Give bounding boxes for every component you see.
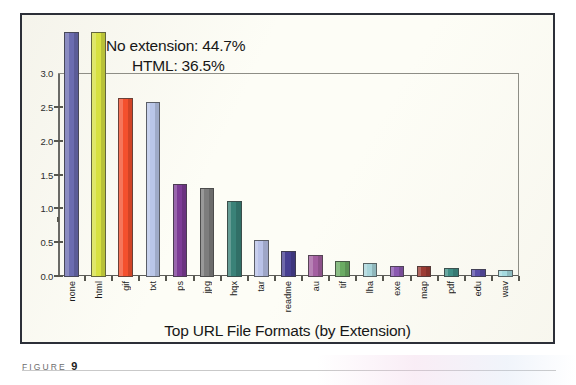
bar-lha bbox=[363, 263, 378, 277]
caption-divider bbox=[22, 370, 556, 371]
y-axis-tick-label: 2.0 bbox=[40, 135, 53, 146]
bar-highlight bbox=[174, 185, 177, 276]
bar-slot: wav bbox=[492, 15, 519, 277]
bar-highlight bbox=[336, 262, 339, 276]
x-axis-label-tar: tar bbox=[256, 281, 266, 292]
bar-highlight bbox=[92, 33, 95, 276]
bar-slot: edu bbox=[465, 15, 492, 277]
y-axis-tick-label: 2.5 bbox=[40, 101, 53, 112]
bar-shade bbox=[182, 185, 186, 276]
bar-ps bbox=[173, 184, 188, 277]
x-axis-label-ps: ps bbox=[175, 281, 185, 291]
x-axis-label-readme: readme bbox=[283, 281, 293, 312]
bar-map bbox=[417, 266, 432, 277]
x-axis-label-tif: tif bbox=[338, 281, 348, 288]
bar-shade bbox=[128, 99, 132, 276]
x-axis-label-lha: lha bbox=[365, 281, 375, 293]
bar-slot: pdf bbox=[438, 15, 465, 277]
y-axis-tick-label: 0.5 bbox=[40, 237, 53, 248]
bar-highlight bbox=[282, 252, 285, 276]
bar-tar bbox=[254, 240, 269, 277]
bar-slot: tar bbox=[248, 15, 275, 277]
bar-shade bbox=[507, 271, 511, 276]
x-axis-label-none: none bbox=[67, 281, 77, 301]
bar-highlight bbox=[472, 270, 475, 276]
bar-slot: tif bbox=[329, 15, 356, 277]
bar-highlight bbox=[499, 271, 502, 276]
bar-highlight bbox=[445, 269, 448, 276]
bar-slot: au bbox=[302, 15, 329, 277]
y-axis-tick-label: 1.5 bbox=[40, 169, 53, 180]
bar-highlight bbox=[309, 256, 312, 276]
bar-shade bbox=[263, 241, 267, 276]
bar-edu bbox=[471, 269, 486, 277]
y-axis-tick-label: 1.0 bbox=[40, 203, 53, 214]
bar-highlight bbox=[147, 103, 150, 276]
bar-exe bbox=[390, 266, 405, 278]
x-axis-label-map: map bbox=[419, 281, 429, 299]
bar-shade bbox=[426, 267, 430, 276]
bar-slot: none bbox=[58, 15, 85, 277]
bar-wav bbox=[498, 270, 513, 277]
x-axis-label-html: html bbox=[94, 281, 104, 298]
bar-au bbox=[308, 255, 323, 277]
bar-highlight bbox=[119, 99, 122, 276]
x-axis-origin-tick bbox=[57, 217, 59, 222]
x-axis-label-gif: gif bbox=[121, 281, 131, 291]
bar-slot: exe bbox=[383, 15, 410, 277]
bar-highlight bbox=[391, 267, 394, 277]
x-axis-label-jpg: jpg bbox=[202, 281, 212, 293]
bar-shade bbox=[372, 264, 376, 276]
x-axis-label-au: au bbox=[311, 281, 321, 291]
chart-title: Top URL File Formats (by Extension) bbox=[22, 322, 553, 340]
bar-shade bbox=[345, 262, 349, 276]
x-axis-label-edu: edu bbox=[473, 281, 483, 296]
bar-shade bbox=[318, 256, 322, 276]
bar-highlight bbox=[228, 202, 231, 276]
bar-highlight bbox=[255, 241, 258, 276]
bar-html bbox=[91, 32, 106, 277]
bar-none bbox=[64, 32, 79, 277]
bar-shade bbox=[236, 202, 240, 276]
x-axis-tick-mark bbox=[518, 276, 520, 281]
x-axis-label-exe: exe bbox=[392, 281, 402, 296]
x-axis-label-wav: wav bbox=[500, 281, 510, 297]
bar-slot: map bbox=[411, 15, 438, 277]
x-axis-label-txt: txt bbox=[148, 281, 158, 291]
annotation-no-extension: No extension: 44.7% bbox=[106, 37, 245, 55]
bar-shade bbox=[480, 270, 484, 276]
bar-highlight bbox=[364, 264, 367, 276]
bar-shade bbox=[209, 189, 213, 276]
bar-readme bbox=[281, 251, 296, 277]
bar-txt bbox=[146, 102, 161, 277]
figure-frame: 0.00.51.01.52.02.53.0 nonehtmlgiftxtpsjp… bbox=[20, 13, 555, 344]
x-axis-label-pdf: pdf bbox=[446, 281, 456, 294]
bar-highlight bbox=[201, 189, 204, 276]
bar-shade bbox=[74, 33, 78, 276]
bar-shade bbox=[155, 103, 159, 276]
annotation-html: HTML: 36.5% bbox=[132, 57, 225, 75]
bar-jpg bbox=[200, 188, 215, 277]
y-axis-tick-label: 3.0 bbox=[40, 68, 53, 79]
bar-hqx bbox=[227, 201, 242, 277]
bar-highlight bbox=[418, 267, 421, 276]
bar-pdf bbox=[444, 268, 459, 277]
bar-shade bbox=[453, 269, 457, 276]
figure-caption: FIGURE 9 bbox=[22, 356, 556, 374]
bar-highlight bbox=[65, 33, 68, 276]
bar-shade bbox=[291, 252, 295, 276]
bar-shade bbox=[399, 267, 403, 277]
bar-slot: readme bbox=[275, 15, 302, 277]
y-axis-tick-label: 0.0 bbox=[40, 271, 53, 282]
bar-gif bbox=[118, 98, 133, 277]
bar-shade bbox=[101, 33, 105, 276]
bar-tif bbox=[335, 261, 350, 277]
x-axis-label-hqx: hqx bbox=[229, 281, 239, 296]
bar-slot: lha bbox=[356, 15, 383, 277]
